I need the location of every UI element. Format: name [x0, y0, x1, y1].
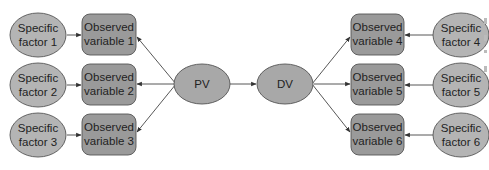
- latent-pv-label: PV: [194, 78, 210, 90]
- specific-factor-2-label-line2: factor 2: [19, 86, 57, 98]
- specific-factor-3: Specific factor 3: [10, 113, 66, 157]
- observed-variable-1-label-line1: Observed: [84, 21, 134, 33]
- specific-factor-6-label-line1: Specific: [441, 122, 482, 134]
- specific-factor-1: Specific factor 1: [10, 13, 66, 57]
- observed-variable-1-label-line2: variable 1: [84, 35, 134, 47]
- latent-pv: PV: [174, 64, 230, 104]
- observed-variable-4-label-line1: Observed: [353, 21, 403, 33]
- edge-pv-ov3: [137, 84, 176, 132]
- observed-variable-2: Observed variable 2: [82, 64, 136, 105]
- specific-factor-5-label-line2: factor 5: [442, 86, 480, 98]
- factor-model-diagram: Specific factor 1 Specific factor 2 Spec…: [0, 0, 489, 170]
- specific-factor-4: Specific factor 4: [433, 13, 489, 57]
- specific-factor-5-label-line1: Specific: [441, 72, 482, 84]
- specific-factor-1-label-line2: factor 1: [19, 36, 57, 48]
- observed-variable-5: Observed variable 5: [351, 64, 404, 105]
- edge-dv-ov4: [312, 37, 350, 84]
- specific-factor-5: Specific factor 5: [433, 63, 489, 107]
- observed-variable-4: Observed variable 4: [351, 14, 404, 55]
- observed-variable-1: Observed variable 1: [82, 14, 136, 55]
- specific-factor-2: Specific factor 2: [10, 63, 66, 107]
- margin-mark: [484, 35, 487, 41]
- latent-dv-label: DV: [277, 78, 293, 90]
- observed-variable-6-label-line2: variable 6: [353, 135, 403, 147]
- observed-variable-6: Observed variable 6: [351, 114, 404, 155]
- margin-mark: [484, 66, 487, 72]
- observed-variable-2-label-line2: variable 2: [84, 85, 134, 97]
- margin-mark: [484, 18, 487, 24]
- specific-factor-3-label-line2: factor 3: [19, 136, 57, 148]
- observed-variable-3-label-line2: variable 3: [84, 135, 134, 147]
- observed-variable-5-label-line1: Observed: [353, 71, 403, 83]
- specific-factor-3-label-line1: Specific: [18, 122, 59, 134]
- specific-factor-4-label-line2: factor 4: [442, 36, 481, 48]
- latent-dv: DV: [257, 64, 313, 104]
- observed-variable-3-label-line1: Observed: [84, 121, 134, 133]
- margin-mark: [484, 50, 487, 53]
- specific-factor-6: Specific factor 6: [433, 113, 489, 157]
- specific-factor-6-label-line2: factor 6: [442, 136, 480, 148]
- observed-variable-3: Observed variable 3: [82, 114, 136, 155]
- observed-variable-2-label-line1: Observed: [84, 71, 134, 83]
- observed-variable-6-label-line1: Observed: [353, 121, 403, 133]
- specific-factor-2-label-line1: Specific: [18, 72, 59, 84]
- observed-variable-4-label-line2: variable 4: [353, 35, 403, 47]
- specific-factor-1-label-line1: Specific: [18, 22, 59, 34]
- observed-variable-5-label-line2: variable 5: [353, 85, 403, 97]
- specific-factor-4-label-line1: Specific: [441, 22, 482, 34]
- edge-pv-ov1: [137, 37, 176, 84]
- edge-dv-ov6: [312, 84, 350, 132]
